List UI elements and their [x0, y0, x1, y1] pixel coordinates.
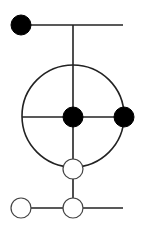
bottom-middle-hollow-node — [63, 198, 83, 218]
bottom-left-hollow-node — [11, 198, 31, 218]
right-filled-node — [114, 107, 134, 127]
top-left-filled-node — [11, 15, 31, 35]
lower-hollow-node — [63, 159, 83, 179]
center-filled-node — [63, 107, 83, 127]
diagram-canvas — [0, 0, 146, 234]
